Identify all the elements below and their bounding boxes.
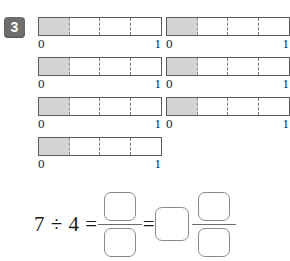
- bar-segment: [131, 58, 162, 75]
- answer-box-numerator[interactable]: [104, 192, 136, 221]
- axis-label-zero: 0: [38, 156, 45, 171]
- number-line-bar: [38, 57, 162, 76]
- bar-diagram-6: 0 1: [166, 57, 290, 91]
- bar-diagram-5: 0 1: [166, 17, 290, 51]
- axis-label-zero: 0: [166, 116, 173, 131]
- axis-label-one: 1: [155, 36, 162, 51]
- bar-segment: [70, 138, 101, 155]
- bar-axis-labels: 0 1: [166, 76, 290, 91]
- bar-segment: [131, 138, 162, 155]
- number-line-bar: [166, 97, 290, 116]
- bar-segment: [131, 98, 162, 115]
- axis-label-one: 1: [155, 156, 162, 171]
- answer-box-mixed-denominator[interactable]: [198, 228, 230, 257]
- axis-label-zero: 0: [38, 76, 45, 91]
- bar-segment-filled: [167, 18, 198, 35]
- exercise-number-badge: 3: [4, 17, 25, 38]
- axis-label-zero: 0: [38, 116, 45, 131]
- fraction-bar: [192, 224, 236, 225]
- bar-segment-filled: [39, 98, 70, 115]
- axis-label-one: 1: [283, 76, 290, 91]
- bar-axis-labels: 0 1: [38, 76, 162, 91]
- bar-diagram-7: 0 1: [166, 97, 290, 131]
- number-line-bar: [166, 57, 290, 76]
- equation-expression: 7 ÷ 4 =: [34, 212, 98, 237]
- bar-segment-filled: [39, 58, 70, 75]
- bar-segment: [70, 98, 101, 115]
- bar-segment: [70, 18, 101, 35]
- bar-segment-filled: [167, 58, 198, 75]
- answer-fraction-1: [98, 192, 142, 257]
- number-line-bar: [38, 17, 162, 36]
- axis-label-one: 1: [283, 36, 290, 51]
- bar-segment: [100, 138, 131, 155]
- axis-label-one: 1: [155, 76, 162, 91]
- bar-segment: [100, 98, 131, 115]
- number-line-bar: [38, 137, 162, 156]
- axis-label-zero: 0: [166, 36, 173, 51]
- axis-label-one: 1: [155, 116, 162, 131]
- axis-label-zero: 0: [38, 36, 45, 51]
- bar-diagram-3: 0 1: [38, 97, 162, 131]
- bar-axis-labels: 0 1: [166, 116, 290, 131]
- bar-axis-labels: 0 1: [38, 116, 162, 131]
- bar-axis-labels: 0 1: [38, 156, 162, 171]
- number-line-bar: [166, 17, 290, 36]
- bar-axis-labels: 0 1: [38, 36, 162, 51]
- equals-sign-2: =: [142, 212, 156, 237]
- bar-segment: [100, 58, 131, 75]
- bar-segment: [198, 98, 229, 115]
- bar-segment: [259, 18, 290, 35]
- bar-axis-labels: 0 1: [166, 36, 290, 51]
- equation-row: 7 ÷ 4 = =: [34, 188, 236, 260]
- fraction-bar: [98, 224, 142, 225]
- answer-box-whole[interactable]: [155, 207, 189, 241]
- number-line-bar: [38, 97, 162, 116]
- answer-box-denominator[interactable]: [104, 228, 136, 257]
- answer-mixed-number: [155, 192, 236, 257]
- bar-diagram-1: 0 1: [38, 17, 162, 51]
- answer-box-mixed-numerator[interactable]: [198, 192, 230, 221]
- bar-segment: [100, 18, 131, 35]
- axis-label-one: 1: [283, 116, 290, 131]
- bar-segment: [259, 58, 290, 75]
- answer-fraction-2: [192, 192, 236, 257]
- bar-segment: [259, 98, 290, 115]
- bar-segment: [228, 18, 259, 35]
- bar-diagram-4: 0 1: [38, 137, 162, 171]
- bar-segment: [228, 98, 259, 115]
- bar-segment: [198, 58, 229, 75]
- bar-segment: [228, 58, 259, 75]
- bar-segment: [70, 58, 101, 75]
- bar-segment: [198, 18, 229, 35]
- axis-label-zero: 0: [166, 76, 173, 91]
- bar-segment-filled: [39, 18, 70, 35]
- bar-segment-filled: [167, 98, 198, 115]
- bar-diagram-2: 0 1: [38, 57, 162, 91]
- bar-segment: [131, 18, 162, 35]
- bar-segment-filled: [39, 138, 70, 155]
